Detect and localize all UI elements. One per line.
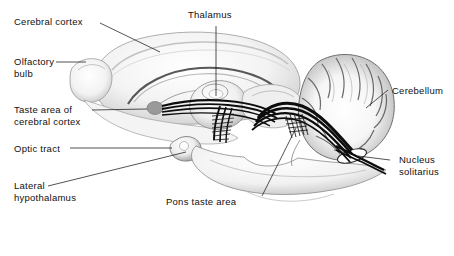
label-pons-taste-area: Pons taste area: [166, 196, 236, 208]
label-optic-tract: Optic tract: [14, 143, 60, 155]
label-olfactory-bulb-line1: Olfactory: [14, 56, 54, 68]
label-lateral-hypothalamus-line1: Lateral: [14, 180, 45, 192]
taste-area-ellipse: [147, 102, 163, 115]
label-lateral-hypothalamus-line2: hypothalamus: [14, 192, 76, 204]
brain-section: [70, 32, 394, 201]
label-cerebral-cortex: Cerebral cortex: [14, 16, 83, 28]
anatomy-illustration: [0, 0, 454, 256]
leader-lateral-hypothalamus: [48, 152, 186, 186]
label-cerebellum: Cerebellum: [392, 85, 443, 97]
label-nucleus-solitarius-line2: solitarius: [399, 166, 439, 178]
label-nucleus-solitarius-line1: Nucleus: [399, 154, 435, 166]
label-taste-area-line1: Taste area of: [14, 104, 72, 116]
brain-diagram: Cerebral cortex Olfactory bulb Taste are…: [0, 0, 454, 256]
label-olfactory-bulb-line2: bulb: [14, 68, 33, 80]
label-thalamus: Thalamus: [188, 9, 232, 21]
label-taste-area-line2: cerebral cortex: [14, 116, 81, 128]
